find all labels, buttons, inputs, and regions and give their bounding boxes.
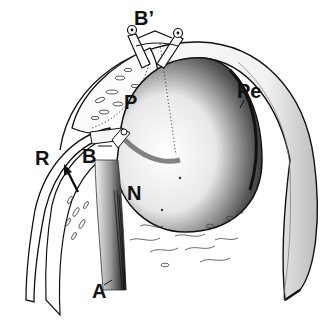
illustration-drawing	[0, 0, 332, 324]
label-p: P	[124, 92, 137, 112]
label-pe: Pe	[237, 81, 261, 101]
label-a: A	[92, 281, 106, 301]
anatomical-figure: B’ P Pe R B N A	[0, 0, 332, 324]
label-b: B	[82, 146, 96, 166]
arrow-icon	[64, 164, 78, 192]
label-r: R	[35, 148, 49, 168]
label-b-prime: B’	[134, 8, 154, 28]
label-n: N	[127, 183, 141, 203]
